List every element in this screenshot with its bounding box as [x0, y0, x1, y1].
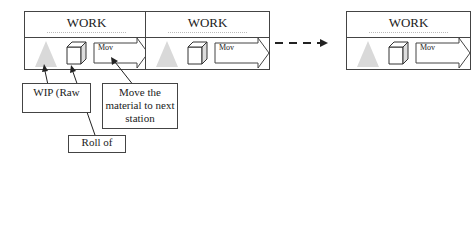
label-roll: Roll of	[68, 135, 126, 153]
label-move-material: Move the material to next station	[102, 83, 178, 129]
label-wip: WIP (Raw	[22, 83, 91, 113]
